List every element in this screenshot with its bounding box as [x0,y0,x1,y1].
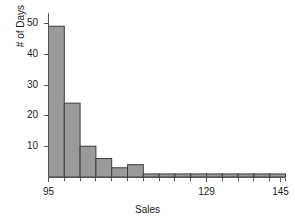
histogram-bar [175,174,191,177]
histogram-bar [96,159,112,177]
histogram-bar [191,174,207,177]
histogram-bar [49,26,65,177]
histogram-bar [112,168,128,177]
histogram-bar [143,174,159,177]
histogram-bar [159,174,175,177]
bars-group [49,26,286,177]
histogram-bar [238,174,254,177]
histogram-bar [207,174,223,177]
histogram-bar [64,103,80,177]
plot-area [0,0,295,220]
histogram-bar [270,174,286,177]
histogram-chart: # of Days Sales 10 20 30 40 50 95 129 14… [0,0,295,220]
histogram-bar [128,165,144,177]
histogram-bar [80,146,96,177]
histogram-bar [222,174,238,177]
histogram-bar [254,174,270,177]
